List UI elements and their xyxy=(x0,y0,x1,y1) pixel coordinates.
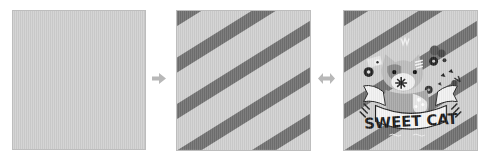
final-illustration-panel: SWEET CAT xyxy=(343,10,478,151)
arrow-right-icon xyxy=(152,73,166,84)
plain-background-panel xyxy=(12,10,146,150)
cat-head xyxy=(381,54,423,91)
flourish xyxy=(389,134,424,136)
diagonal-stripes xyxy=(177,11,310,150)
double-arrow-icon xyxy=(318,73,335,84)
paper-texture xyxy=(13,11,145,149)
banner-text: SWEET CAT xyxy=(364,110,458,132)
sparkle-icon xyxy=(401,39,409,45)
sweet-cat-illustration: SWEET CAT xyxy=(344,11,477,150)
tag-icon xyxy=(367,56,383,68)
flower-icon xyxy=(364,67,374,77)
striped-background-panel xyxy=(176,10,311,151)
